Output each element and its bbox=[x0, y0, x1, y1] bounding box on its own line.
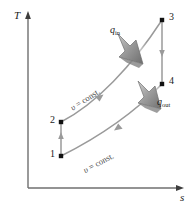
t-axis-label: T bbox=[14, 10, 20, 21]
state-label-3: 3 bbox=[169, 12, 174, 22]
state-point-2 bbox=[59, 120, 63, 124]
ts-diagram: T s 1 2 3 4 qin qout υ = const. υ = cons… bbox=[0, 0, 196, 209]
state-label-2: 2 bbox=[50, 115, 55, 125]
process-1-2-arrowhead bbox=[58, 132, 64, 139]
state-point-4 bbox=[160, 82, 164, 86]
q-out-subscript: out bbox=[162, 101, 170, 108]
state-point-3 bbox=[160, 18, 164, 22]
q-out-label: qout bbox=[157, 97, 170, 107]
q-in-subscript: in bbox=[115, 29, 120, 36]
q-in-block-arrow bbox=[114, 32, 148, 68]
process-1-2 bbox=[58, 122, 64, 156]
state-point-1 bbox=[59, 154, 63, 158]
process-3-4 bbox=[159, 20, 165, 84]
t-axis-arrowhead bbox=[25, 11, 31, 19]
q-in-label: qin bbox=[110, 25, 120, 35]
state-label-4: 4 bbox=[169, 76, 174, 86]
state-label-1: 1 bbox=[50, 149, 55, 159]
process-3-4-arrowhead bbox=[159, 50, 165, 57]
s-axis-label: s bbox=[180, 192, 184, 203]
